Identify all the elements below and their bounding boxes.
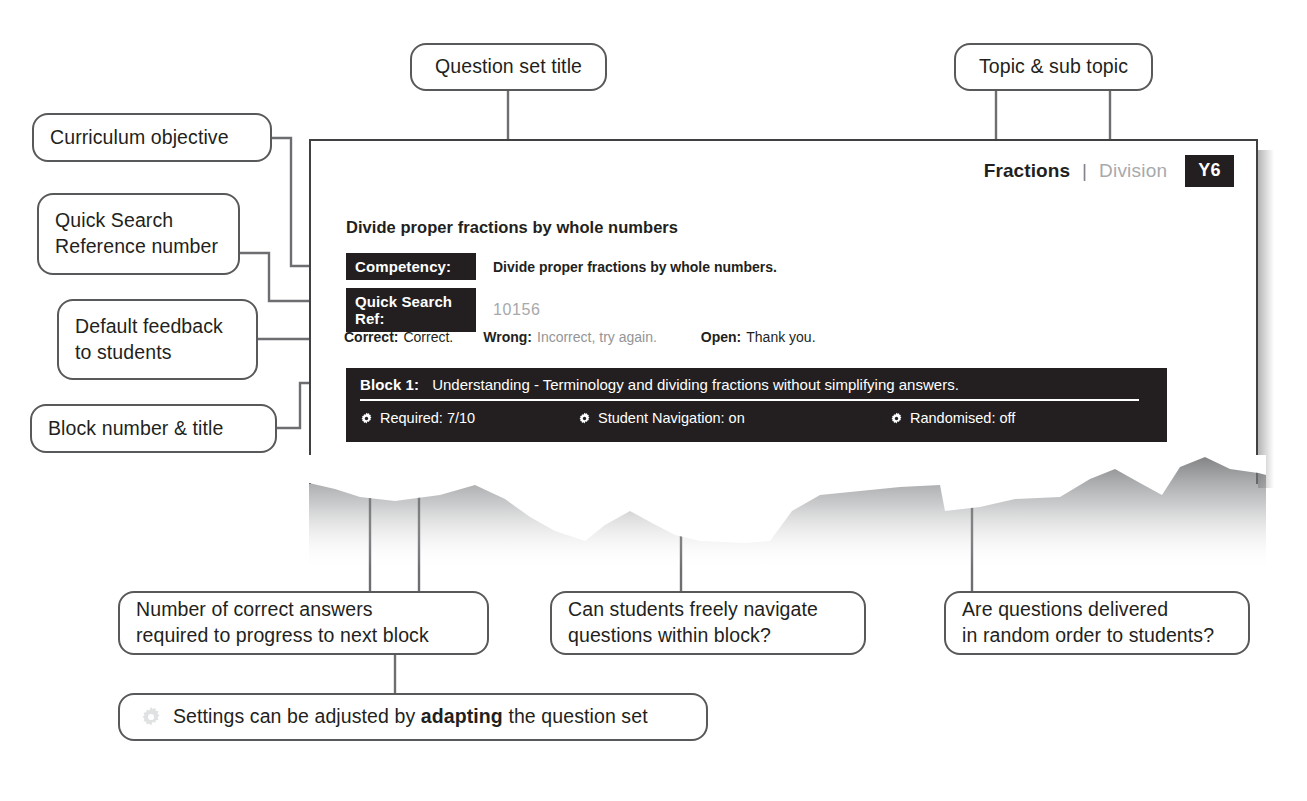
block-summary-bar: Block 1: Understanding - Terminology and… <box>346 368 1167 442</box>
topic-separator: | <box>1082 160 1087 182</box>
feedback-open: Open: Thank you. <box>701 329 816 345</box>
callout-student-navigation-line2: questions within block? <box>568 623 771 649</box>
settings-note-post: the question set <box>503 705 648 727</box>
topic-label: Fractions <box>984 160 1070 182</box>
settings-note-bold: adapting <box>421 705 503 727</box>
callout-randomised-line1: Are questions delivered <box>962 597 1168 623</box>
block-title-row: Block 1: Understanding - Terminology and… <box>360 376 1153 399</box>
setting-randomised: Randomised: off <box>890 410 1015 426</box>
callout-default-feedback[interactable]: Default feedback to students <box>57 299 258 380</box>
gear-icon <box>140 706 162 728</box>
sub-topic-label: Division <box>1099 160 1167 182</box>
block-settings-row: Required: 7/10 Student Navigation: on Ra… <box>360 401 1153 426</box>
torn-paper-edge <box>300 455 1275 570</box>
competency-row: Competency: Divide proper fractions by w… <box>346 253 777 280</box>
quick-search-ref-label: Quick Search Ref: <box>346 288 476 332</box>
document-drop-shadow <box>1258 150 1274 488</box>
setting-student-navigation-label: Student Navigation: on <box>598 410 745 426</box>
quick-search-ref-row: Quick Search Ref: 10156 <box>346 288 541 332</box>
year-group-badge: Y6 <box>1185 155 1234 187</box>
callout-required-answers-line1: Number of correct answers <box>136 597 373 623</box>
document-header: Fractions | Division Y6 <box>984 155 1234 187</box>
callout-topic-sub-topic-label: Topic & sub topic <box>979 54 1128 80</box>
setting-student-navigation: Student Navigation: on <box>578 410 890 426</box>
callout-topic-sub-topic[interactable]: Topic & sub topic <box>954 43 1153 91</box>
callout-default-feedback-line1: Default feedback <box>75 314 223 340</box>
setting-required: Required: 7/10 <box>360 410 578 426</box>
question-set-document: Fractions | Division Y6 Divide proper fr… <box>309 139 1258 484</box>
callout-quick-search-ref-line2: Reference number <box>55 234 218 260</box>
settings-note-pre: Settings can be adjusted by <box>173 705 421 727</box>
feedback-open-value: Thank you. <box>746 329 815 345</box>
callout-block-number-title-label: Block number & title <box>48 416 223 442</box>
default-feedback-row: Correct: Correct. Wrong: Incorrect, try … <box>344 329 846 345</box>
feedback-wrong-value: Incorrect, try again. <box>537 329 657 345</box>
diagram-canvas: Fractions | Division Y6 Divide proper fr… <box>0 0 1307 801</box>
gear-icon <box>360 412 373 425</box>
callout-quick-search-ref-line1: Quick Search <box>55 208 173 234</box>
block-title: Understanding - Terminology and dividing… <box>432 376 959 393</box>
gear-icon <box>890 412 903 425</box>
question-set-title: Divide proper fractions by whole numbers <box>346 218 678 237</box>
callout-settings-note[interactable]: Settings can be adjusted by adapting the… <box>118 693 708 741</box>
feedback-wrong: Wrong: Incorrect, try again. <box>483 329 657 345</box>
callout-question-set-title[interactable]: Question set title <box>410 43 607 91</box>
callout-randomised-line2: in random order to students? <box>962 623 1214 649</box>
quick-search-ref-value: 10156 <box>493 301 541 319</box>
callout-required-answers[interactable]: Number of correct answers required to pr… <box>118 591 489 655</box>
competency-label: Competency: <box>346 253 476 280</box>
setting-randomised-label: Randomised: off <box>910 410 1015 426</box>
competency-value: Divide proper fractions by whole numbers… <box>493 259 777 275</box>
callout-question-set-title-label: Question set title <box>435 54 582 80</box>
callout-student-navigation[interactable]: Can students freely navigate questions w… <box>550 591 866 655</box>
feedback-open-key: Open: <box>701 329 741 345</box>
feedback-wrong-key: Wrong: <box>483 329 532 345</box>
callout-curriculum-objective[interactable]: Curriculum objective <box>32 113 272 162</box>
callout-quick-search-ref[interactable]: Quick Search Reference number <box>37 193 240 275</box>
setting-required-label: Required: 7/10 <box>380 410 475 426</box>
callout-curriculum-objective-label: Curriculum objective <box>50 125 229 151</box>
callout-default-feedback-line2: to students <box>75 340 172 366</box>
gear-icon <box>578 412 591 425</box>
feedback-correct-value: Correct. <box>403 329 453 345</box>
callout-settings-note-text: Settings can be adjusted by adapting the… <box>173 704 648 730</box>
callout-student-navigation-line1: Can students freely navigate <box>568 597 818 623</box>
callout-randomised[interactable]: Are questions delivered in random order … <box>944 591 1250 655</box>
feedback-correct-key: Correct: <box>344 329 398 345</box>
block-number: Block 1: <box>360 376 419 393</box>
feedback-correct: Correct: Correct. <box>344 329 453 345</box>
callout-required-answers-line2: required to progress to next block <box>136 623 429 649</box>
callout-block-number-title[interactable]: Block number & title <box>30 404 277 453</box>
